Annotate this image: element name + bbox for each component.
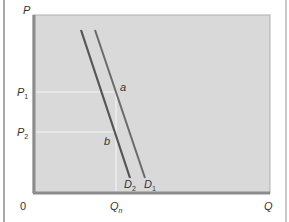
plot-area xyxy=(33,15,270,193)
qn-label: Qn xyxy=(110,200,123,214)
origin-label: 0 xyxy=(20,200,26,212)
point-b-label: b xyxy=(104,135,110,147)
x-axis-label: Q xyxy=(264,200,273,212)
demand-shift-chart: P Q 0 P1 P2 Qn a b D2 D1 xyxy=(0,0,289,222)
y-axis-label: P xyxy=(23,4,31,16)
p2-label: P2 xyxy=(17,126,28,140)
p1-label: P1 xyxy=(17,86,28,100)
point-a-label: a xyxy=(120,81,126,93)
